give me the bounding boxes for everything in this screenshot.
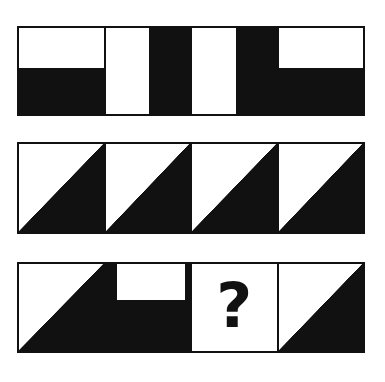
question-mark-glyph: ? <box>216 275 252 337</box>
matrix-row-1 <box>17 26 365 116</box>
row3-cell2[interactable] <box>104 264 191 351</box>
row2-cell4[interactable] <box>277 144 364 232</box>
row3-cell4[interactable] <box>277 264 364 351</box>
row1-cell2[interactable] <box>104 28 191 114</box>
row2-cell1[interactable] <box>19 144 104 232</box>
row2-cell2[interactable] <box>104 144 191 232</box>
inset-white-rectangle <box>115 264 187 302</box>
row1-cell3[interactable] <box>190 28 277 114</box>
row3-cell1[interactable] <box>19 264 104 351</box>
row1-cell1[interactable] <box>19 28 104 114</box>
matrix-row-2 <box>17 142 365 234</box>
row2-cell3[interactable] <box>190 144 277 232</box>
row1-cell4[interactable] <box>277 28 364 114</box>
row3-cell3-question[interactable]: ? <box>190 264 277 351</box>
matrix-row-3: ? <box>17 262 365 353</box>
pattern-puzzle: ? <box>0 0 385 382</box>
